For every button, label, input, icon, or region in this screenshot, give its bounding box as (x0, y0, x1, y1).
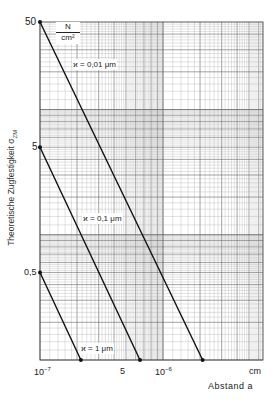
chart-plot-area (0, 0, 276, 408)
data-lines (38, 20, 205, 362)
log-grid (40, 22, 263, 360)
plot-frame (40, 22, 263, 360)
unit-denominator: cm² (56, 33, 80, 42)
y-unit-box: N cm² (56, 22, 80, 44)
y-tick-5: 5 (32, 142, 38, 152)
x-tick-5: 5 (120, 367, 125, 376)
y-tick-50: 50 (25, 17, 36, 27)
series-endpoint (38, 20, 42, 24)
series-line (40, 272, 81, 360)
series-endpoint (38, 270, 42, 274)
series-line (40, 22, 203, 360)
x-tick-1e-7: 10−7 (34, 366, 51, 377)
x-unit: cm (249, 367, 261, 376)
unit-numerator: N (56, 22, 80, 33)
series-endpoint (138, 358, 142, 362)
y-axis-title: Theoretische Zugfestigkeit σZM (6, 118, 18, 258)
series-endpoint (79, 358, 83, 362)
x-axis-title: Abstand a (208, 382, 253, 391)
series-endpoint (201, 358, 205, 362)
x-tick-1e-6: 10−6 (155, 366, 172, 377)
series-label-1: ϰ = 1 μm (80, 343, 114, 354)
y-tick-0-5: 0,5 (24, 268, 37, 277)
series-endpoint (38, 145, 42, 149)
series-label-0-1: ϰ = 0,1 μm (82, 213, 123, 224)
series-label-0-01: ϰ = 0,01 μm (72, 59, 117, 70)
